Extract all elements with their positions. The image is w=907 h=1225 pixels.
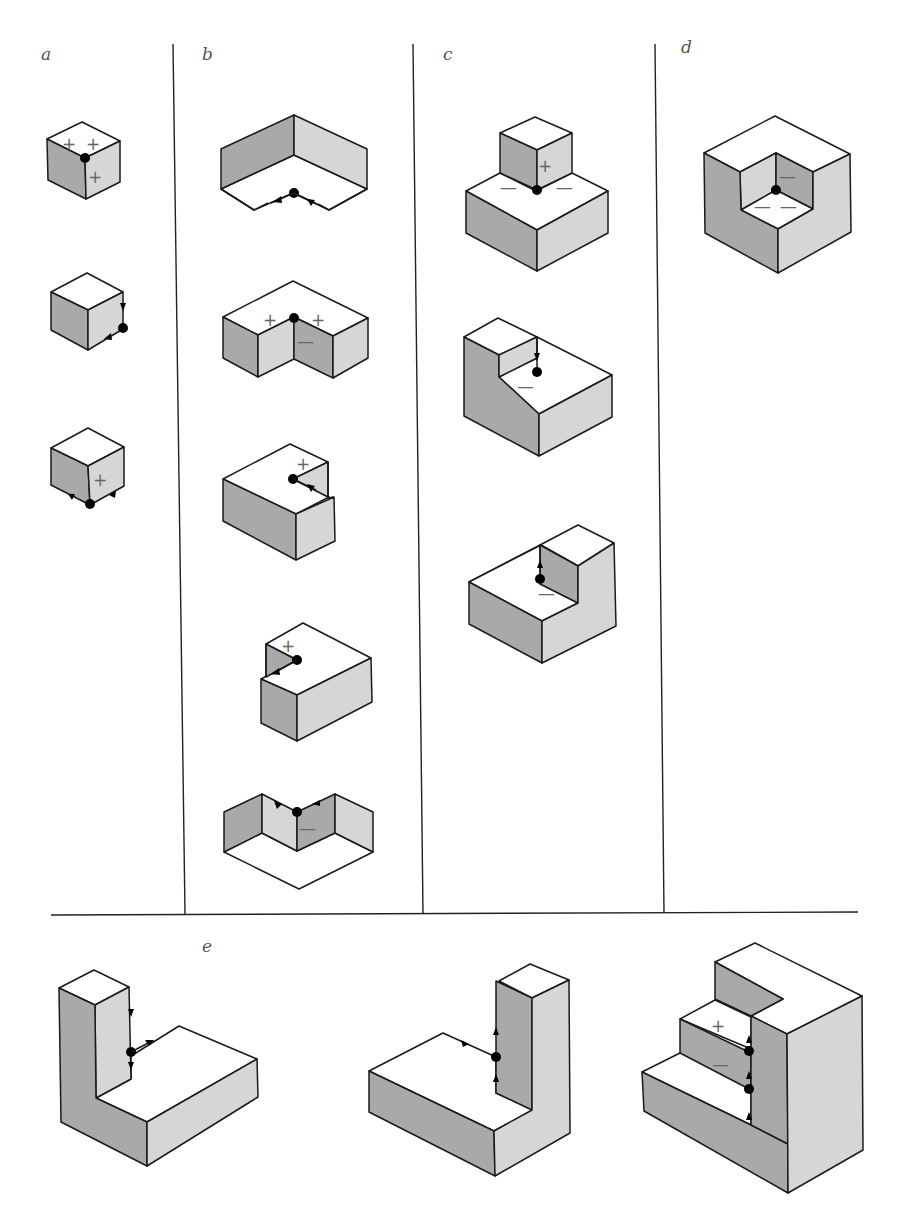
- label-plus: +: [311, 310, 325, 330]
- divider-horizontal: [51, 912, 858, 915]
- vertex-dot: [80, 153, 90, 163]
- figure-b3-block-upper-notch: +: [223, 444, 335, 560]
- label-minus: —: [517, 376, 534, 396]
- label-plus: +: [538, 156, 552, 176]
- figure-b1-concave-floor-corner: [221, 115, 367, 210]
- vertex-dot: [744, 1084, 754, 1094]
- figure-c1-stacked-cubes: + — —: [466, 117, 608, 271]
- label-minus: —: [712, 1054, 729, 1074]
- vertex-dot: [491, 1052, 501, 1062]
- figure-b4-block-left-notch: +: [261, 623, 372, 741]
- label-plus: +: [93, 470, 107, 490]
- figure-d1-cube-with-corner-cutout: — — —: [704, 116, 851, 273]
- vertex-dot: [292, 807, 302, 817]
- figure-b2-l-block-convex-notch: + + —: [223, 281, 368, 378]
- figure-e2-l-shape-right-pillar: [369, 964, 570, 1176]
- label-minus: —: [538, 583, 555, 603]
- vertex-dot: [85, 499, 95, 509]
- panel-label-d: d: [681, 37, 692, 57]
- panel-label-b: b: [202, 44, 213, 64]
- divider-c-d: [655, 44, 664, 913]
- vertex-dot: [289, 313, 299, 323]
- label-plus: +: [263, 310, 277, 330]
- label-plus: +: [296, 454, 310, 474]
- panel-label-a: a: [41, 44, 51, 64]
- divider-b-c: [413, 44, 423, 914]
- figure-c3-l-block: —: [469, 525, 616, 663]
- label-minus: —: [299, 818, 316, 838]
- label-minus: —: [780, 196, 797, 216]
- label-minus: —: [556, 177, 573, 197]
- vertex-dot: [771, 185, 781, 195]
- figure-e1-l-shape-left-pillar: [59, 970, 258, 1166]
- label-minus: —: [500, 177, 517, 197]
- divider-a-b: [173, 44, 185, 914]
- label-plus: +: [281, 636, 295, 656]
- label-plus: +: [62, 134, 76, 154]
- panel-label-e: e: [202, 936, 212, 956]
- vertex-dot: [532, 185, 542, 195]
- figure-b5-concave-double-wall: —: [224, 794, 373, 889]
- label-minus: —: [754, 196, 771, 216]
- figure-a1-cube-convex-corner: + + +: [47, 122, 120, 199]
- polyhedra-vertex-labeling-diagram: a b c d e + + + +: [0, 0, 907, 1225]
- label-minus: —: [297, 331, 314, 351]
- label-plus: +: [86, 134, 100, 154]
- label-minus: —: [779, 166, 796, 186]
- figure-e3-staircase-block: + —: [642, 943, 863, 1193]
- figure-a3-cube-bottom-corner: +: [51, 428, 124, 509]
- label-plus: +: [88, 167, 102, 187]
- vertex-dot: [744, 1046, 754, 1056]
- panel-label-c: c: [443, 44, 453, 64]
- figure-c2-step-block: —: [464, 318, 612, 456]
- figure-a2-cube-occluding-corner: [51, 273, 128, 350]
- vertex-dot: [118, 323, 128, 333]
- label-plus: +: [711, 1016, 725, 1036]
